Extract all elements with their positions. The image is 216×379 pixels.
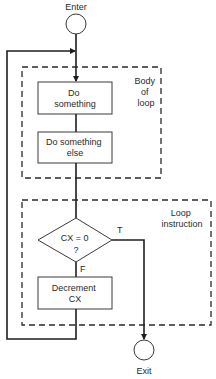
exit-terminal <box>134 340 154 360</box>
enter-label: Enter <box>65 2 87 12</box>
loop-instruction-label: Loop instruction <box>161 208 202 229</box>
flowchart: Enter Body of loop Do something Do somet… <box>0 0 216 379</box>
body-of-loop-label: Body of loop <box>134 76 157 108</box>
true-branch-label: T <box>117 225 123 235</box>
do-something-box <box>38 82 112 114</box>
enter-terminal <box>66 14 86 34</box>
exit-label: Exit <box>136 366 152 376</box>
decrement-cx-box <box>38 277 112 309</box>
edge-true-to-exit <box>112 240 144 339</box>
false-branch-label: F <box>80 264 86 274</box>
